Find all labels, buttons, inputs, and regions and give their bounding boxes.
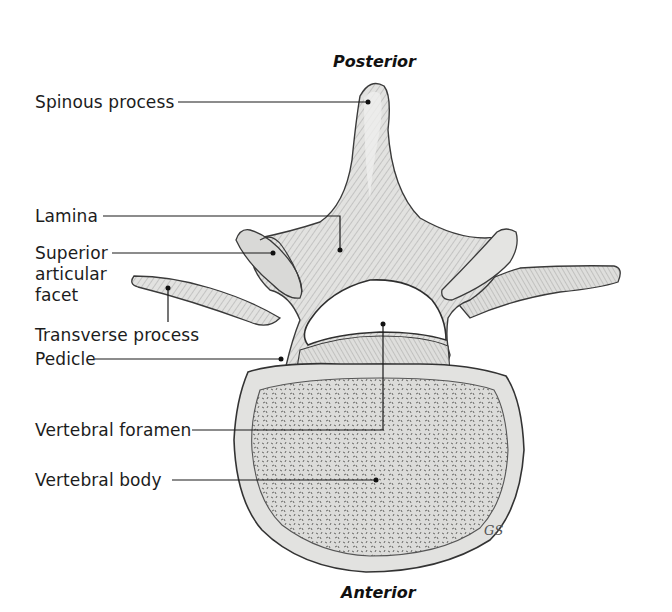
artist-signature: GS — [484, 523, 503, 538]
label-line: Superior — [35, 243, 108, 264]
label-line: facet — [35, 285, 108, 306]
orientation-anterior: Anterior — [341, 583, 416, 602]
label-vertebral-foramen: Vertebral foramen — [35, 420, 192, 440]
label-transverse-process: Transverse process — [35, 325, 199, 345]
label-lamina: Lamina — [35, 206, 98, 226]
label-line: articular — [35, 264, 108, 285]
label-spinous-process: Spinous process — [35, 92, 174, 112]
label-vertebral-body: Vertebral body — [35, 470, 162, 490]
orientation-posterior: Posterior — [333, 52, 416, 71]
label-pedicle: Pedicle — [35, 349, 96, 369]
vertebra-diagram: Posterior Anterior Spinous process Lamin… — [0, 0, 672, 612]
label-superior-articular-facet: Superior articular facet — [35, 243, 108, 306]
vertebral-body-shape — [234, 364, 524, 572]
posterior-arch — [132, 84, 621, 374]
